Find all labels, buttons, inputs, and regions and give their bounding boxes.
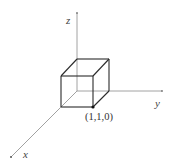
cube-edge-bottom-right-depth [93,91,109,107]
z-axis-tip [76,12,78,14]
cube-edge-top-right-depth [93,59,109,76]
x-axis-label: x [22,148,28,160]
z-axis-label: z [65,14,71,26]
point-marker [91,105,94,108]
point-label: (1,1,0) [85,111,113,123]
y-axis-tip [161,90,163,92]
cube-diagram: z y x (1,1,0) [0,0,172,164]
y-axis-label: y [154,97,160,109]
x-axis-tip [10,156,12,158]
cube-edge-top-left-depth [61,59,77,76]
x-axis [11,91,77,157]
